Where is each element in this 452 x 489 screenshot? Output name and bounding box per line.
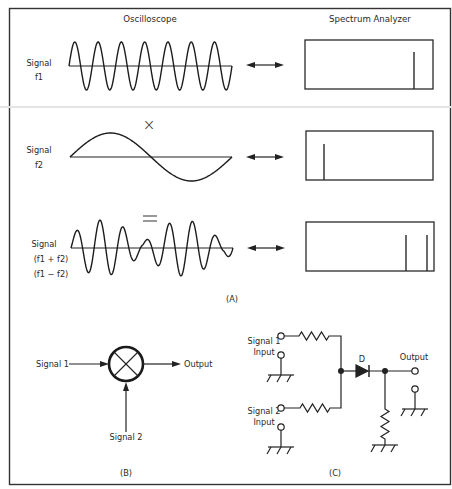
row1-double-arrow-icon [246, 62, 284, 68]
load-resistor-icon [381, 371, 389, 445]
row3-label-signal: Signal [31, 239, 56, 249]
oscilloscope-header: Oscilloscope [123, 14, 177, 24]
circuit-input2-label: Signal 2 [248, 406, 281, 416]
row2-double-arrow-icon [246, 154, 284, 160]
mixer-input1-label: Signal 1 [36, 359, 69, 369]
caption-c: (C) [329, 468, 341, 478]
arrowhead-icon [123, 382, 129, 391]
circuit-input1-label: Signal 1 [248, 336, 281, 346]
input1-terminal-icon [278, 333, 284, 339]
circuit-input2-sublabel: Input [253, 417, 275, 427]
row3-double-arrow-icon [247, 245, 285, 251]
row3-label-sum: (f1 + f2) [34, 254, 69, 264]
part-c: Signal 1 Input Signal 2 Input [248, 332, 429, 478]
input2-resistor-icon [284, 371, 341, 412]
row3-label-difference: (f1 − f2) [34, 269, 69, 279]
row1-label-signal: Signal [26, 58, 51, 68]
part-b: Signal 1 Output Signal 2 (B) [36, 347, 213, 478]
mixer-input2-label: Signal 2 [110, 432, 143, 442]
output-terminal-icon [412, 368, 418, 374]
diode-icon [356, 365, 369, 377]
row2-spectrum-display [306, 131, 433, 180]
input2-ground-icon [267, 424, 294, 454]
mixer-figure: Oscilloscope Spectrum Analyzer Signal f1… [0, 0, 452, 489]
row1-label-freq: f1 [35, 72, 43, 82]
row2-label-freq: f2 [35, 160, 43, 170]
diode-label: D [359, 354, 365, 364]
caption-b: (B) [120, 468, 132, 478]
part-a: Oscilloscope Spectrum Analyzer Signal f1… [26, 14, 434, 304]
arrowhead-icon [100, 361, 109, 367]
mixer-symbol-icon [109, 347, 143, 381]
row2-label-signal: Signal [26, 145, 51, 155]
mixer-output-label: Output [184, 359, 213, 369]
circuit-input1-sublabel: Input [253, 347, 275, 357]
row3-spectrum-display [306, 222, 434, 271]
input2-terminal-icon [278, 405, 284, 411]
spectrum-analyzer-header: Spectrum Analyzer [329, 14, 411, 24]
output-ground-icon [401, 386, 428, 416]
multiply-operator: × [143, 116, 156, 134]
caption-a: (A) [226, 294, 238, 304]
arrowhead-icon [172, 361, 181, 367]
circuit-output-label: Output [400, 352, 429, 362]
equals-operator [143, 216, 157, 221]
input1-resistor-icon [284, 332, 341, 371]
load-ground-icon [371, 445, 398, 452]
